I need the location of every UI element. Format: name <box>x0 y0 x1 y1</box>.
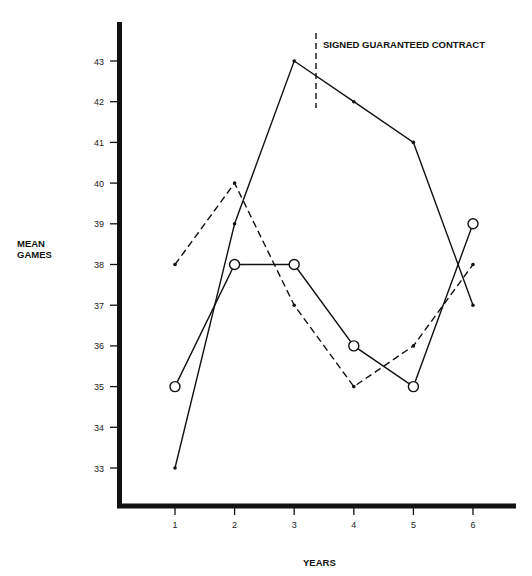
dot-marker <box>292 59 296 63</box>
y-tick-label: 37 <box>94 301 104 311</box>
dot-marker <box>173 466 177 470</box>
y-tick-label: 39 <box>94 219 104 229</box>
y-tick-label: 35 <box>94 382 104 392</box>
circle-marker <box>289 260 299 270</box>
x-tick-label: 5 <box>411 520 416 530</box>
y-tick-label: 41 <box>94 138 104 148</box>
dot-marker <box>292 303 296 307</box>
series-2 <box>173 181 475 388</box>
dot-marker <box>233 222 237 226</box>
circle-marker <box>349 341 359 351</box>
circle-marker <box>468 219 478 229</box>
dot-marker <box>412 344 416 348</box>
series-line <box>175 61 473 468</box>
circle-marker <box>408 382 418 392</box>
y-axis-title-line1: MEAN <box>17 238 45 249</box>
x-tick-label: 1 <box>172 520 177 530</box>
series-3 <box>170 219 478 392</box>
circle-marker <box>170 382 180 392</box>
x-axis-ticks: 123456 <box>172 508 475 530</box>
dot-marker <box>412 141 416 145</box>
dot-marker <box>352 100 356 104</box>
circle-marker <box>230 260 240 270</box>
y-axis-ticks: 3334353637383940414243 <box>94 57 118 474</box>
x-tick-label: 4 <box>351 520 356 530</box>
y-tick-label: 43 <box>94 57 104 67</box>
dot-marker <box>352 385 356 389</box>
y-tick-label: 42 <box>94 97 104 107</box>
series-layer <box>170 59 478 470</box>
dot-marker <box>471 263 475 267</box>
series-1 <box>173 59 475 470</box>
y-tick-label: 38 <box>94 260 104 270</box>
x-tick-label: 6 <box>470 520 475 530</box>
y-axis-title-line2: GAMES <box>17 249 52 260</box>
x-tick-label: 3 <box>292 520 297 530</box>
y-tick-label: 34 <box>94 423 104 433</box>
y-tick-label: 36 <box>94 341 104 351</box>
x-axis-title: YEARS <box>303 557 336 568</box>
x-tick-label: 2 <box>232 520 237 530</box>
y-tick-label: 40 <box>94 179 104 189</box>
dot-marker <box>233 181 237 185</box>
line-chart: 3334353637383940414243 123456 MEAN GAMES… <box>0 0 532 576</box>
dot-marker <box>173 263 177 267</box>
contract-annotation-label: SIGNED GUARANTEED CONTRACT <box>323 39 485 50</box>
series-line <box>175 224 473 387</box>
y-tick-label: 33 <box>94 464 104 474</box>
dot-marker <box>471 303 475 307</box>
